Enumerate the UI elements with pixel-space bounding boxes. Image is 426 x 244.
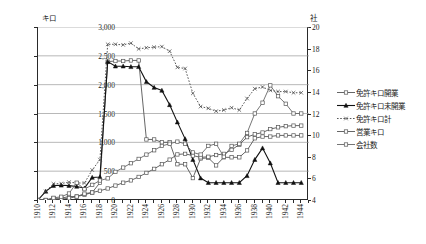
x-axis-tick-label: 1930: [188, 204, 197, 219]
y2-axis-tick-label: 12: [312, 109, 320, 118]
legend-marker-icon: [336, 87, 356, 98]
x-axis-tick-label: 1934: [219, 204, 228, 219]
x-axis-tick-label: 1922: [126, 204, 135, 219]
series-会社数: [38, 84, 303, 200]
legend-marker-icon: [336, 113, 356, 124]
y2-axis-tick-label: 14: [312, 87, 320, 96]
x-axis-tick-mark: [114, 200, 115, 203]
x-axis-tick-mark: [76, 200, 77, 203]
x-axis-tick-mark: [246, 200, 247, 203]
x-axis-tick-mark: [122, 200, 123, 203]
chart-legend: 免許キロ開業免許キロ未開業免許キロ計営業キロ会社数: [336, 86, 426, 151]
x-axis-tick-mark: [293, 200, 294, 203]
series-免許キロ計: [38, 41, 303, 200]
legend-item-2[interactable]: 免許キロ計: [336, 112, 426, 125]
x-axis-tick-mark: [223, 200, 224, 203]
x-axis-tick-mark: [184, 200, 185, 203]
x-axis-tick-mark: [169, 200, 170, 203]
y2-axis-tick-label: 16: [312, 66, 320, 75]
x-axis-tick-label: 1944: [296, 204, 305, 219]
x-axis-tick-mark: [300, 200, 301, 203]
legend-label: 免許キロ開業: [356, 87, 398, 98]
x-axis-tick-label: 1942: [281, 204, 290, 219]
x-axis-tick-mark: [176, 200, 177, 203]
x-axis-tick-mark: [60, 200, 61, 203]
legend-label: 営業キロ: [356, 126, 384, 137]
x-axis-tick-label: 1916: [79, 204, 88, 219]
y2-axis-tick-label: 8: [312, 152, 316, 161]
legend-marker-icon: [336, 126, 356, 137]
x-axis-tick-label: 1918: [95, 204, 104, 219]
x-axis-tick-mark: [68, 200, 69, 203]
x-axis-tick-mark: [37, 200, 38, 203]
x-axis-tick-label: 1924: [141, 204, 150, 219]
x-axis-tick-mark: [277, 200, 278, 203]
legend-item-0[interactable]: 免許キロ開業: [336, 86, 426, 99]
x-axis-tick-label: 1928: [172, 204, 181, 219]
x-axis-tick-mark: [238, 200, 239, 203]
x-axis-tick-label: 1936: [234, 204, 243, 219]
legend-item-4[interactable]: 会社数: [336, 138, 426, 151]
legend-marker-icon: [336, 100, 356, 111]
x-axis-tick-mark: [262, 200, 263, 203]
x-axis-tick-mark: [215, 200, 216, 203]
x-axis-tick-mark: [99, 200, 100, 203]
x-axis-tick-label: 1912: [48, 204, 57, 219]
right-axis-unit-label: 社: [310, 12, 317, 23]
x-axis-tick-mark: [254, 200, 255, 203]
x-axis-tick-mark: [200, 200, 201, 203]
y2-axis-tick-label: 18: [312, 44, 320, 53]
x-axis-tick-mark: [161, 200, 162, 203]
x-axis-tick-mark: [45, 200, 46, 203]
legend-item-3[interactable]: 営業キロ: [336, 125, 426, 138]
x-axis-tick-mark: [83, 200, 84, 203]
legend-item-1[interactable]: 免許キロ未開業: [336, 99, 426, 112]
x-axis-tick-label: 1926: [157, 204, 166, 219]
x-axis-tick-mark: [192, 200, 193, 203]
legend-label: 免許キロ計: [356, 113, 391, 124]
x-axis-tick-mark: [107, 200, 108, 203]
series-免許キロ開業: [38, 59, 303, 200]
x-axis-tick-mark: [145, 200, 146, 203]
legend-label: 免許キロ未開業: [356, 100, 405, 111]
x-axis-tick-label: 1920: [110, 204, 119, 219]
x-axis-tick-mark: [91, 200, 92, 203]
left-axis-unit-label: キロ: [42, 12, 57, 23]
legend-marker-icon: [336, 139, 356, 150]
x-axis-tick-mark: [153, 200, 154, 203]
x-axis-tick-label: 1932: [203, 204, 212, 219]
x-axis-tick-mark: [285, 200, 286, 203]
x-axis-tick-label: 1910: [33, 204, 42, 219]
legend-label: 会社数: [356, 139, 377, 150]
x-axis-tick-mark: [308, 200, 309, 203]
plot-area: [37, 27, 308, 200]
y2-axis-tick-label: 6: [312, 174, 316, 183]
x-axis-tick-mark: [231, 200, 232, 203]
y2-axis-tick-label: 10: [312, 131, 320, 140]
x-axis-tick-label: 1940: [265, 204, 274, 219]
x-axis-tick-mark: [130, 200, 131, 203]
x-axis-tick-mark: [269, 200, 270, 203]
x-axis-tick-mark: [207, 200, 208, 203]
x-axis-tick-mark: [52, 200, 53, 203]
x-axis-tick-label: 1938: [250, 204, 259, 219]
series-免許キロ未開業: [38, 59, 303, 200]
x-axis-tick-label: 1914: [64, 204, 73, 219]
x-axis-tick-mark: [138, 200, 139, 203]
y2-axis-tick-label: 20: [312, 23, 320, 32]
chart-figure: キロ 社 05001,0001,5002,0002,5003,000 46810…: [0, 0, 426, 244]
y2-axis-tick-label: 4: [312, 196, 316, 205]
